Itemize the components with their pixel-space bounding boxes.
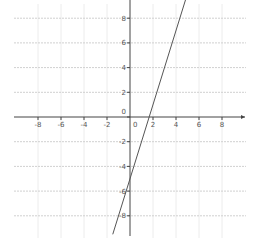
y-tick-label: 8 — [122, 15, 126, 23]
y-tick-label: -8 — [119, 212, 126, 220]
y-tick-label: 6 — [122, 39, 127, 47]
y-tick-label: -2 — [119, 138, 126, 146]
y-tick-label: 2 — [122, 89, 126, 97]
x-tick-label: -8 — [35, 121, 42, 129]
x-tick-label: 2 — [151, 121, 155, 129]
x-tick-label: 6 — [197, 121, 202, 129]
y-tick-label: -4 — [119, 163, 127, 171]
x-tick-label: -2 — [104, 121, 111, 129]
x-axis-arrow-icon — [241, 115, 245, 119]
x-tick-label: 8 — [220, 121, 224, 129]
origin-label: 0 — [133, 121, 137, 129]
coordinate-plane: -8-6-4-224680-8-6-4-202468 — [0, 0, 260, 250]
graph-canvas: -8-6-4-224680-8-6-4-202468 — [0, 0, 260, 250]
y-tick-label: 0 — [122, 108, 126, 116]
x-tick-label: -4 — [81, 121, 89, 129]
x-tick-label: 4 — [174, 121, 179, 129]
y-tick-label: 4 — [122, 64, 127, 72]
x-tick-label: -6 — [58, 121, 66, 129]
